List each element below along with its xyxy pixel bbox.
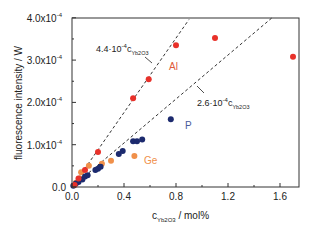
data-point-ge xyxy=(131,153,137,159)
data-point-p xyxy=(168,116,174,122)
data-point-p xyxy=(139,137,145,143)
data-point-p xyxy=(85,172,91,178)
data-point-al xyxy=(146,76,152,82)
data-point-p xyxy=(120,148,126,154)
y-tick-label: 0.0 xyxy=(52,182,66,193)
data-point-al xyxy=(212,35,218,41)
series-label-p: P xyxy=(185,120,192,131)
data-point-al xyxy=(76,176,82,182)
data-point-p xyxy=(134,138,140,144)
data-point-al xyxy=(82,167,88,173)
data-point-p xyxy=(98,164,104,170)
data-point-al xyxy=(95,149,101,155)
x-tick-label: 0.4 xyxy=(117,191,131,202)
scatter-chart: 0.00.40.81.21.6 0.01.0x10-42.0x10-43.0x1… xyxy=(0,0,313,230)
series-label-al: Al xyxy=(169,61,178,72)
y-tick-label: 2.0x10-4 xyxy=(27,96,63,108)
y-axis-ticks: 0.01.0x10-42.0x10-43.0x10-44.0x10-4 xyxy=(27,12,76,193)
y-axis-label: fluorescence intensity / W xyxy=(13,45,24,159)
data-point-ge xyxy=(108,158,114,164)
y-tick-label: 1.0x10-4 xyxy=(27,139,63,151)
x-tick-label: 0.0 xyxy=(65,191,79,202)
data-points xyxy=(70,35,296,189)
svg-text:4.4·10-4cYb2O3: 4.4·10-4cYb2O3 xyxy=(96,43,149,56)
series-label-ge: Ge xyxy=(144,155,158,166)
x-tick-label: 1.6 xyxy=(273,191,287,202)
data-point-al xyxy=(173,42,179,48)
y-tick-label: 3.0x10-4 xyxy=(27,54,63,66)
x-axis-ticks: 0.00.40.81.21.6 xyxy=(65,183,287,202)
x-tick-label: 1.2 xyxy=(221,191,235,202)
data-point-al xyxy=(290,54,296,60)
x-axis-label: cYb2O3 / mol% xyxy=(152,210,209,223)
fit-label-p: 2.6·10-4cYb2O3 xyxy=(197,86,250,110)
data-point-al xyxy=(130,95,136,101)
y-tick-label: 4.0x10-4 xyxy=(27,12,63,24)
svg-text:2.6·10-4cYb2O3: 2.6·10-4cYb2O3 xyxy=(197,97,250,110)
x-tick-label: 0.8 xyxy=(169,191,183,202)
fit-label-al: 4.4·10-4cYb2O3 xyxy=(96,43,152,63)
